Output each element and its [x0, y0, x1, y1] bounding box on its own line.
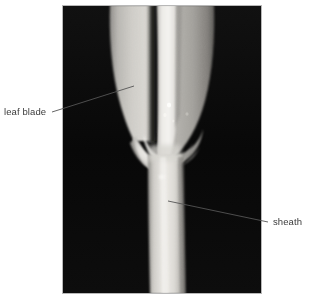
label-leaf-blade: leaf blade — [4, 106, 46, 117]
label-sheath: sheath — [273, 216, 302, 227]
photograph-plate — [62, 5, 262, 294]
figure-root: leaf blade sheath — [0, 0, 312, 304]
film-grain — [62, 5, 262, 294]
photograph-image — [62, 5, 262, 294]
